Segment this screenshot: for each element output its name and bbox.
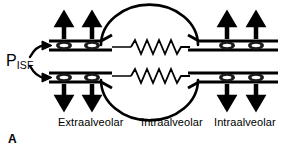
bottom-left-cells	[56, 73, 100, 81]
alveolus-circle	[101, 5, 198, 121]
top-outward-arrows	[58, 14, 263, 39]
cell-lumen	[223, 76, 232, 79]
arrow-down-icon	[86, 84, 99, 108]
top-vessel-upper-wall-right	[188, 35, 278, 41]
bottom-vessel-lower-wall-right	[188, 82, 278, 88]
region-label-extraalveolar: Extraalveolar	[58, 117, 124, 128]
region-label-intraalveolar-right: Intraalveolar	[214, 117, 276, 128]
region-label-intraalveolar-left: Intraalveolar	[141, 117, 203, 128]
bottom-outward-arrows	[58, 84, 263, 108]
cell-lumen	[252, 76, 261, 79]
top-right-cells	[219, 41, 264, 49]
top-capillary-resistor	[131, 40, 190, 54]
top-left-cells	[56, 41, 100, 49]
bottom-capillary-resistor	[131, 69, 190, 83]
bottom-vessel	[49, 69, 278, 108]
cell-lumen	[60, 76, 69, 79]
arrow-down-icon	[58, 84, 71, 108]
cell-lumen	[88, 44, 97, 47]
arrow-up-icon	[221, 14, 234, 39]
arrow-up-icon	[86, 14, 99, 39]
figure-panel-a: PISF Extraalveolar Intraalveolar Intraal…	[0, 0, 284, 150]
cell-lumen	[88, 76, 97, 79]
cell-lumen	[252, 44, 261, 47]
alveolus-upper-arc	[101, 5, 198, 45]
arrow-up-icon	[58, 14, 71, 39]
panel-letter: A	[8, 133, 17, 145]
top-vessel	[49, 14, 278, 54]
arrow-down-icon	[250, 84, 263, 108]
cell-lumen	[223, 44, 232, 47]
bottom-right-cells	[219, 73, 264, 81]
pressure-label-pisf: PISF	[6, 53, 34, 70]
arrow-down-icon	[221, 84, 234, 108]
arrow-up-icon	[250, 14, 263, 39]
cell-lumen	[60, 44, 69, 47]
pressure-symbol: P	[6, 52, 17, 69]
alveolus-lower-arc	[101, 80, 198, 120]
pressure-subscript: ISF	[17, 59, 34, 71]
